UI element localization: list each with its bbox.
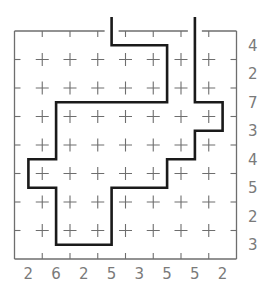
row-clue: 5 [248,179,258,197]
plus-mark [91,110,104,123]
row-clues: 42734523 [248,37,258,255]
plus-mark [64,224,77,237]
column-clue: 2 [218,265,228,283]
plus-mark [36,167,49,180]
plus-mark [36,110,49,123]
plus-mark [36,139,49,152]
plus-mark [119,110,132,123]
plus-mark [175,82,188,95]
row-clue: 4 [248,37,258,55]
plus-mark [202,110,215,123]
plus-mark [64,110,77,123]
plus-mark [36,196,49,209]
plus-mark [147,196,160,209]
track-path [28,17,222,245]
column-clue: 3 [135,265,145,283]
column-clue: 5 [190,265,200,283]
row-clue: 4 [248,151,258,169]
plus-mark [202,196,215,209]
plus-mark [202,82,215,95]
plus-mark [91,82,104,95]
plus-mark [91,224,104,237]
row-clue: 2 [248,208,258,226]
plus-mark [147,110,160,123]
plus-mark [36,82,49,95]
plus-mark [175,196,188,209]
plus-mark [119,53,132,66]
row-clue: 3 [248,122,258,140]
plus-mark [202,167,215,180]
plus-mark [119,82,132,95]
row-clue: 2 [248,65,258,83]
plus-mark [202,139,215,152]
plus-mark [147,139,160,152]
plus-mark [64,82,77,95]
column-clue: 5 [162,265,172,283]
plus-mark [175,224,188,237]
plus-mark [147,53,160,66]
plus-mark [147,167,160,180]
column-clues: 26253552 [24,265,228,283]
plus-mark [175,139,188,152]
plus-mark [64,53,77,66]
row-clue: 7 [248,94,258,112]
plus-mark [64,139,77,152]
plus-mark [119,224,132,237]
plus-mark [119,196,132,209]
plus-mark [91,167,104,180]
plus-mark [202,224,215,237]
plus-mark [119,139,132,152]
plus-mark [36,224,49,237]
plus-mark [64,196,77,209]
column-clue: 5 [107,265,117,283]
plus-mark [147,82,160,95]
plus-mark [175,167,188,180]
plus-mark [91,139,104,152]
row-clue: 3 [248,236,258,254]
plus-mark [36,53,49,66]
plus-mark [91,53,104,66]
plus-mark [202,53,215,66]
puzzle-board: 42734523 26253552 [0,0,271,301]
plus-mark [147,224,160,237]
column-clue: 6 [51,265,61,283]
column-clue: 2 [24,265,34,283]
plus-mark [91,196,104,209]
plus-mark [175,110,188,123]
column-clue: 2 [79,265,89,283]
grid-intersection-marks [36,53,216,237]
plus-mark [175,53,188,66]
plus-mark [64,167,77,180]
plus-mark [119,167,132,180]
